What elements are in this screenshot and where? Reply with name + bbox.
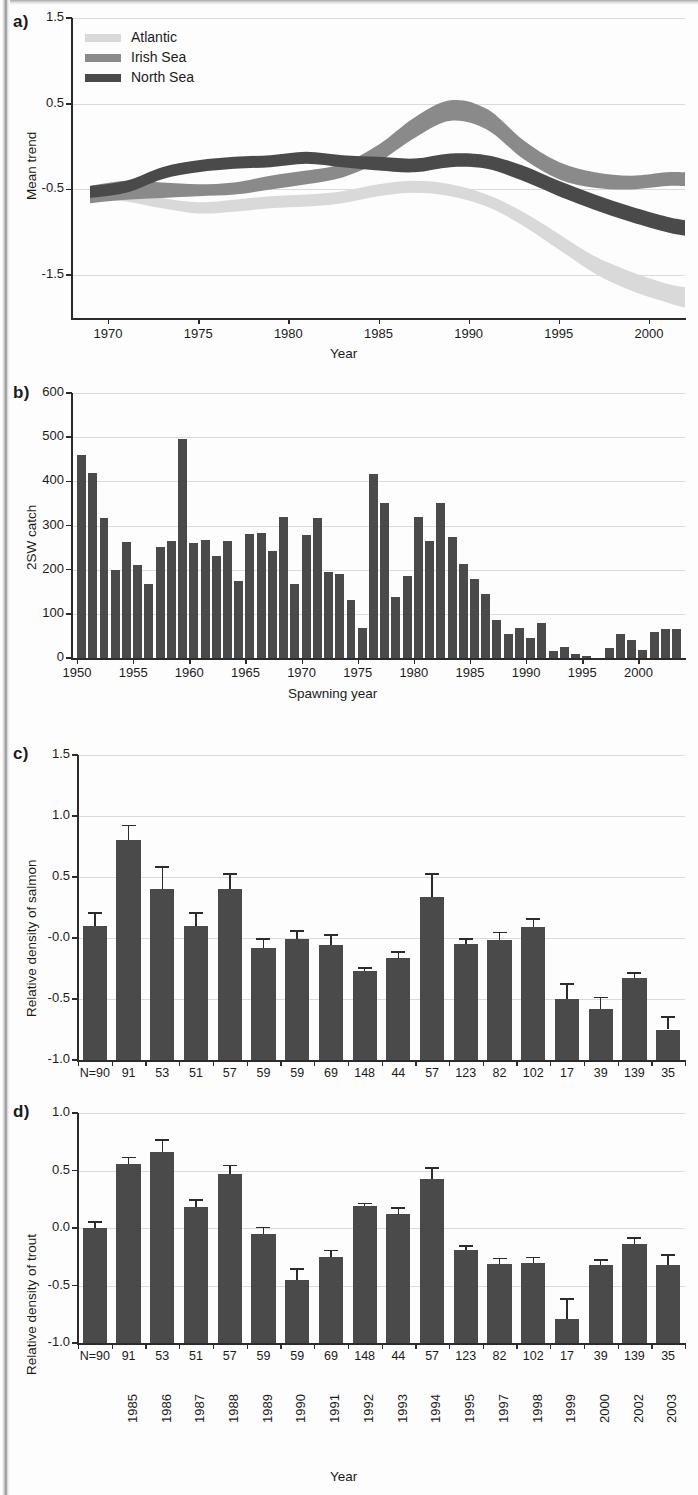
panel-b-ytick: 400 [0,472,64,487]
bar [582,656,591,658]
panel-d-n-label: 35 [642,1349,694,1363]
panel-a-ytick: 1.5 [0,9,64,24]
bar [133,565,142,658]
error-bar [566,1298,568,1319]
panel-b-plot-area [72,393,685,658]
x-tick-mark [526,658,527,664]
panel-b-xtick: 1980 [384,665,444,680]
bar [560,647,569,658]
bar [268,551,277,658]
bar [167,541,176,658]
bar [380,503,389,658]
panel-d-xlabel: Year [330,1469,357,1484]
bar [116,840,140,1060]
panel-a-xtick: 1985 [349,326,409,341]
bar [150,889,174,1060]
error-bar-cap [425,873,439,875]
legend-swatch-atlantic [85,34,121,42]
panel-a-xtick: 1970 [78,326,138,341]
panel-a-ytick: -1.5 [0,266,64,281]
bar [403,576,412,658]
error-bar-cap [290,930,304,932]
bar [279,517,288,658]
bar [251,1234,275,1343]
bar [313,518,322,658]
gridline-horizontal [72,393,685,394]
error-bar-cap [189,912,203,914]
panel-b-xtick: 1955 [103,665,163,680]
error-bar [94,912,96,925]
panel-b-ytick: 200 [0,561,64,576]
x-tick-mark [469,318,470,324]
y-axis-line [77,755,79,1060]
panel-d-ytick: 0.0 [0,1219,70,1234]
panel-d-xtick: 2003 [664,1394,679,1440]
x-tick-mark [133,658,134,664]
bar [335,574,344,658]
bar [184,926,208,1060]
bar [650,632,659,658]
error-bar-cap [256,1227,270,1229]
panel-d-xtick: 2002 [631,1394,646,1440]
panel-d-xtick: 1998 [530,1394,545,1440]
panel-b-xtick: 1995 [552,665,612,680]
panel-c-ytick: -0.0 [0,929,70,944]
error-bar-cap [594,997,608,999]
bar [492,620,501,658]
bar [656,1265,680,1343]
bar [257,533,266,658]
gridline-horizontal [78,877,685,878]
bar [353,1206,377,1343]
bar [319,1257,343,1343]
x-tick-mark [638,658,639,664]
error-bar-cap [391,951,405,953]
x-tick-mark [358,658,359,664]
error-bar-cap [560,1298,574,1300]
error-bar-cap [493,932,507,934]
panel-d-ylabel: Relative density of trout [24,1234,39,1375]
error-bar-cap [155,866,169,868]
x-tick-mark [649,318,650,324]
error-bar [330,934,332,945]
bar [218,1174,242,1343]
x-tick-mark [245,658,246,664]
error-bar-cap [526,918,540,920]
legend-swatch-irish-sea [85,54,121,62]
bar [537,623,546,658]
bar [414,517,423,658]
legend-swatch-north-sea [85,74,121,82]
error-bar [431,873,433,896]
error-bar [195,912,197,925]
panel-c-plot-area [78,755,685,1060]
error-bar-cap [358,1203,372,1205]
bar [454,1250,478,1343]
error-bar-cap [122,825,136,827]
bar [555,999,579,1060]
panel-d-ytick: -1.0 [0,1334,70,1349]
bar [386,958,410,1060]
x-tick-mark [559,318,560,324]
x-tick-mark [108,318,109,324]
bar [420,1179,444,1343]
x-tick-mark [470,658,471,664]
bar [122,542,131,658]
error-bar-cap [627,1237,641,1239]
error-bar-cap [324,934,338,936]
bar [184,1207,208,1343]
panel-c: c) Relative density of salmon 1.51.00.5-… [0,715,698,1085]
bar [116,1164,140,1343]
bar [386,1214,410,1343]
x-tick-mark [288,318,289,324]
gridline-horizontal [78,755,685,756]
bar [391,597,400,658]
panel-a-xtick: 1980 [258,326,318,341]
bar [178,439,187,658]
bar [555,1319,579,1343]
bar [487,940,511,1060]
error-bar-cap [155,1139,169,1141]
bar [251,948,275,1060]
bar [521,927,545,1060]
panel-d-ytick: 0.5 [0,1162,70,1177]
error-bar-cap [594,1259,608,1261]
bar [571,654,580,658]
